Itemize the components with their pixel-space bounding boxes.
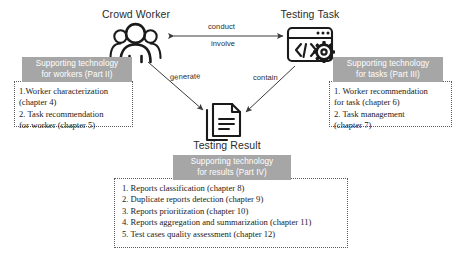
panel-item: 3. Reports prioritization (chapter 10) <box>122 206 343 217</box>
node-label-crowd-worker: Crowd Worker <box>98 8 174 20</box>
panel-item: 4. Reports aggregation and summarization… <box>122 217 343 228</box>
diagram-canvas: Crowd Worker Testing Task Testing Result… <box>0 0 458 257</box>
node-label-testing-result: Testing Result <box>186 139 268 151</box>
panel-header-workers-line2: for workers (Part II) <box>26 70 128 81</box>
edge-label-contain: contain <box>253 73 278 82</box>
panel-item: for task (chapter 6) <box>334 97 447 108</box>
panel-item: (chapter 4) <box>19 97 128 108</box>
panel-body-results: 1. Reports classification (chapter 8) 2.… <box>114 178 348 248</box>
edge-label-involve: involve <box>211 39 235 48</box>
panel-body-workers: 1.Worker characterization (chapter 4) 2.… <box>14 81 133 127</box>
node-label-testing-task: Testing Task <box>272 8 348 20</box>
panel-header-results-line2: for results (Part IV) <box>177 168 287 179</box>
panel-header-workers: Supporting technology for workers (Part … <box>22 57 132 82</box>
panel-item: 2. Duplicate reports detection (chapter … <box>122 194 343 205</box>
arrow-generate <box>148 62 203 110</box>
panel-item: 1.Worker characterization <box>19 86 128 97</box>
panel-item: 2. Task recommendation <box>19 109 128 120</box>
panel-item: for worker (chapter 5) <box>19 120 128 131</box>
edge-label-conduct: conduct <box>208 22 235 31</box>
panel-item: 1. Reports classification (chapter 8) <box>122 183 343 194</box>
panel-header-results-line1: Supporting technology <box>177 157 287 168</box>
panel-header-tasks-line1: Supporting technology <box>337 59 439 70</box>
panel-item: 5. Test cases quality assessment (chapte… <box>122 229 343 240</box>
panel-item: 1. Worker recommendation <box>334 86 447 97</box>
code-window-gear-icon <box>288 28 335 63</box>
documents-icon <box>207 104 240 140</box>
edge-label-generate: generate <box>170 71 201 81</box>
panel-body-tasks: 1. Worker recommendation for task (chapt… <box>329 81 452 127</box>
panel-header-results: Supporting technology for results (Part … <box>173 155 291 180</box>
panel-header-tasks: Supporting technology for tasks (Part II… <box>333 57 443 82</box>
panel-header-workers-line1: Supporting technology <box>26 59 128 70</box>
panel-header-tasks-line2: for tasks (Part III) <box>337 70 439 81</box>
panel-item: 2. Task management <box>334 109 447 120</box>
panel-item: (chapter 7) <box>334 120 447 131</box>
